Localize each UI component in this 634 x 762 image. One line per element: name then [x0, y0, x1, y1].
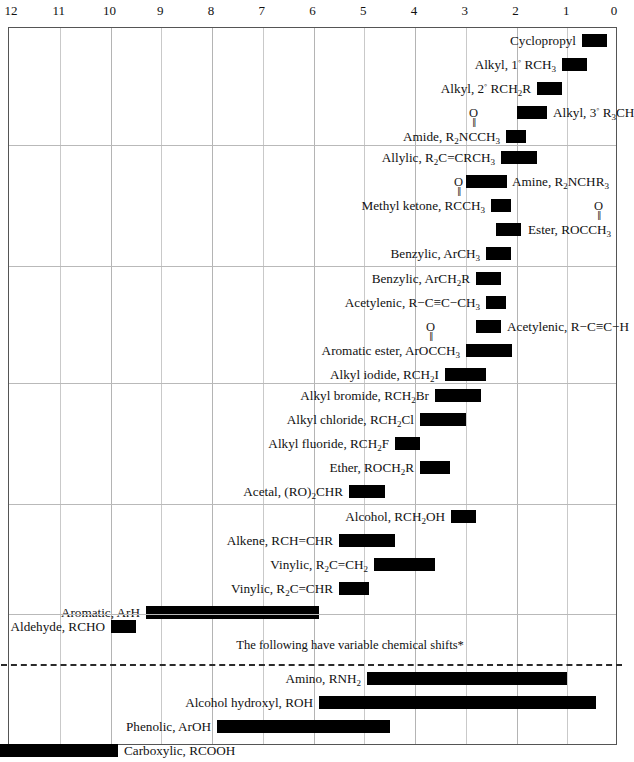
range-bar [537, 82, 562, 95]
range-bar [111, 620, 136, 633]
carbonyl-group-icon: O∥ [426, 322, 435, 340]
range-bar [451, 510, 476, 523]
range-bar [445, 368, 486, 381]
range-bar [435, 389, 481, 402]
range-bar [517, 106, 547, 119]
chart-row: Alcohol, RCH2OH [9, 506, 616, 528]
range-bar [491, 199, 511, 212]
axis-tick-11: 11 [52, 4, 65, 18]
axis-tick-12: 12 [5, 4, 18, 18]
axis-tick-1: 1 [563, 4, 570, 18]
row-label: Phenolic, ArOH [126, 717, 211, 736]
chart-row: Benzylic, ArCH3 [9, 243, 616, 265]
axis-tick-4: 4 [411, 4, 418, 18]
row-label: Aromatic ester, ArOCCH3 [322, 341, 460, 362]
chart-row: Ester, ROCCH3O∥ [9, 219, 616, 241]
row-label: Alkyl fluoride, RCH2F [268, 434, 389, 455]
row-label: Alkyl chloride, RCH2Cl [287, 410, 414, 431]
range-bar [349, 485, 385, 498]
row-label: Ester, ROCCH3 [528, 220, 611, 241]
axis-tick-7: 7 [259, 4, 266, 18]
row-label: Amino, RNH2 [285, 669, 361, 690]
range-bar [339, 582, 369, 595]
axis-tick-8: 8 [208, 4, 215, 18]
carbonyl-group-icon: O∥ [454, 177, 463, 195]
range-bar [395, 437, 420, 450]
row-label: Acetal, (RO)2CHR [243, 482, 343, 503]
row-label: Alkyl, 3◦ R3CH [553, 103, 634, 124]
x-axis-tick-labels: 1211109876543210 [0, 0, 621, 26]
section-divider-1 [9, 145, 616, 146]
row-label: Vinylic, R2C=CH2 [270, 555, 368, 576]
section-divider-4 [9, 504, 616, 505]
row-label: Carboxylic, RCOOH [124, 741, 235, 760]
row-label: Vinylic, R2C=CHR [231, 579, 333, 600]
variable-shift-note: The following have variable chemical shi… [236, 638, 464, 653]
section-divider-5 [9, 614, 616, 615]
range-bar [466, 175, 507, 188]
range-bar [496, 223, 521, 236]
chart-row: Alkyl, 2◦ RCH2R [9, 78, 616, 100]
row-label: Alkyl bromide, RCH2Br [300, 386, 429, 407]
chart-row: Alkyl, 3◦ R3CH [9, 102, 616, 124]
range-bar [420, 461, 450, 474]
range-bar [0, 744, 118, 757]
chart-row: Carboxylic, RCOOH [9, 740, 616, 762]
range-bar [562, 58, 587, 71]
chart-row: Amine, R2NCHR3 [9, 171, 616, 193]
range-bar [501, 151, 537, 164]
chart-row: Cyclopropyl [9, 30, 616, 52]
chart-row: Alkyl fluoride, RCH2F [9, 433, 616, 455]
section-divider-2 [9, 266, 616, 267]
chart-row: Acetylenic, R−C≡C−CH3 [9, 292, 616, 314]
range-bar [486, 296, 506, 309]
range-bar [367, 672, 567, 685]
axis-tick-2: 2 [512, 4, 519, 18]
range-bar [339, 534, 395, 547]
axis-tick-0: 0 [611, 4, 618, 18]
axis-tick-6: 6 [309, 4, 316, 18]
row-label: Alcohol, RCH2OH [345, 507, 445, 528]
range-bar [476, 272, 501, 285]
row-label: Methyl ketone, RCCH3 [361, 196, 485, 217]
range-bar [582, 34, 607, 47]
range-bar [319, 696, 596, 709]
axis-tick-3: 3 [462, 4, 469, 18]
chart-row: Acetylenic, R−C≡C−H [9, 316, 616, 338]
row-label: Acetylenic, R−C≡C−CH3 [345, 293, 480, 314]
section-divider-3 [9, 383, 616, 384]
range-bar [217, 720, 390, 733]
row-label: Cyclopropyl [510, 31, 576, 50]
row-label: Benzylic, ArCH2R [372, 269, 470, 290]
chart-row: Aldehyde, RCHO [9, 616, 616, 638]
carbonyl-group-icon: O∥ [594, 201, 603, 219]
row-label: Acetylenic, R−C≡C−H [507, 317, 629, 336]
row-label: Alkyl, 2◦ RCH2R [441, 79, 531, 100]
chart-row: Benzylic, ArCH2R [9, 268, 616, 290]
range-bar [374, 558, 435, 571]
chart-row: Aromatic ester, ArOCCH3O∥ [9, 340, 616, 362]
chart-row: Methyl ketone, RCCH3O∥ [9, 195, 616, 217]
chart-row: Ether, ROCH2R [9, 457, 616, 479]
range-bar [466, 344, 512, 357]
range-bar [476, 320, 501, 333]
chart-row: Acetal, (RO)2CHR [9, 481, 616, 503]
range-bar [506, 130, 526, 143]
axis-tick-10: 10 [103, 4, 116, 18]
chart-row: Alcohol hydroxyl, ROH [9, 692, 616, 714]
chart-row: Allylic, R2C=CRCH3 [9, 147, 616, 169]
row-label: Amine, R2NCHR3 [512, 172, 609, 193]
row-label: Benzylic, ArCH3 [391, 244, 480, 265]
carbonyl-group-icon: O∥ [469, 108, 478, 126]
chart-row: Alkene, RCH=CHR [9, 530, 616, 552]
chart-row: Vinylic, R2C=CHR [9, 578, 616, 600]
row-label: Aldehyde, RCHO [10, 617, 105, 636]
row-label: Alkene, RCH=CHR [227, 531, 333, 550]
chart-row: Vinylic, R2C=CH2 [9, 554, 616, 576]
chart-row: Alkyl chloride, RCH2Cl [9, 409, 616, 431]
row-label: Alkyl, 1◦ RCH3 [475, 55, 556, 76]
plot-area: CyclopropylAlkyl, 1◦ RCH3Alkyl, 2◦ RCH2R… [8, 27, 617, 745]
chart-row: Alkyl bromide, RCH2Br [9, 385, 616, 407]
range-bar [420, 413, 466, 426]
